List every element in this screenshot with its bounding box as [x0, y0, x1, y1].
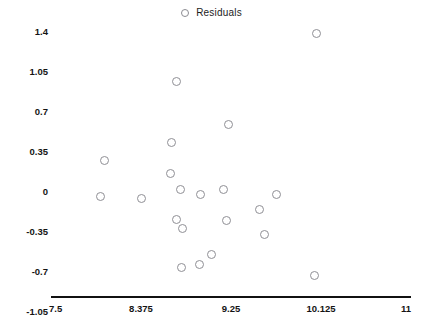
data-point — [178, 224, 187, 233]
data-point — [167, 138, 176, 147]
plot-area — [0, 0, 423, 336]
data-point — [96, 192, 105, 201]
data-point — [219, 185, 228, 194]
data-point — [224, 120, 233, 129]
data-point — [195, 260, 204, 269]
data-point — [312, 29, 321, 38]
x-axis-tick-label: 8.375 — [129, 303, 153, 314]
x-axis-tick-label: 9.25 — [222, 303, 241, 314]
x-axis-tick-label: 11 — [401, 303, 411, 314]
data-point — [222, 216, 231, 225]
x-axis-line — [51, 296, 411, 298]
x-axis-tick-label: 7.5 — [49, 303, 62, 314]
data-point — [196, 190, 205, 199]
data-point — [137, 194, 146, 203]
data-point — [207, 250, 216, 259]
data-point — [172, 77, 181, 86]
scatter-chart: Residuals 1.41.050.70.350-0.35-0.7-1.05 … — [0, 0, 423, 336]
data-point — [260, 230, 269, 239]
data-point — [310, 271, 319, 280]
data-point — [177, 263, 186, 272]
data-point — [272, 190, 281, 199]
data-point — [166, 169, 175, 178]
data-point — [255, 205, 264, 214]
x-axis-tick-label: 10.125 — [306, 303, 335, 314]
data-point — [172, 215, 181, 224]
data-point — [100, 156, 109, 165]
data-point — [176, 185, 185, 194]
